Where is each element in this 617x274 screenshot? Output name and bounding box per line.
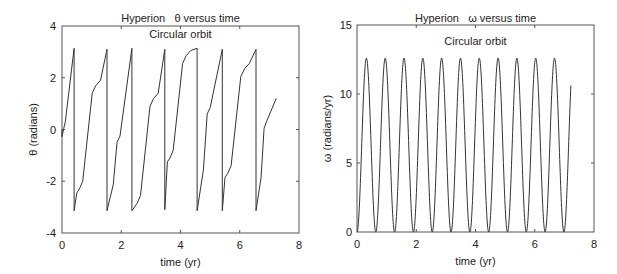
omega-title: Hyperion ω versus time — [415, 12, 536, 24]
theta-xtick-2: 2 — [118, 239, 124, 251]
theta-xlabel: time (yr) — [160, 256, 200, 268]
omega-ytick-10: 10 — [340, 88, 352, 100]
omega-xtick-6: 6 — [532, 238, 538, 250]
omega-xtick-4: 4 — [472, 238, 478, 250]
theta-ytick-neg4: -4 — [46, 227, 56, 239]
theta-ytick-0: 0 — [50, 124, 56, 136]
theta-ytick-neg2: -2 — [46, 175, 56, 187]
omega-ytick-15: 15 — [340, 19, 352, 31]
omega-ytick-0: 0 — [346, 226, 352, 238]
omega-ylabel: ω (radians/yr) — [321, 95, 333, 162]
omega-subtitle: Circular orbit — [444, 35, 506, 47]
omega-ytick-5: 5 — [346, 157, 352, 169]
theta-xtick-0: 0 — [59, 239, 65, 251]
theta-subtitle: Circular orbit — [149, 28, 211, 40]
theta-title: Hyperion θ versus time — [121, 12, 240, 24]
omega-xtick-8: 8 — [591, 238, 597, 250]
omega-xtick-2: 2 — [413, 238, 419, 250]
theta-ylabel: θ (radians) — [27, 103, 39, 156]
omega-plot: 15 10 5 0 0 2 4 6 8 time (yr) ω (radians… — [321, 12, 597, 267]
theta-plot-frame — [62, 26, 299, 233]
theta-xtick-6: 6 — [237, 239, 243, 251]
theta-ytick-2: 2 — [50, 72, 56, 84]
omega-curve — [357, 58, 571, 232]
theta-xtick-4: 4 — [177, 239, 183, 251]
figure: 4 2 0 -2 -4 0 2 4 6 8 time (yr) θ (radia… — [0, 0, 617, 274]
theta-ytick-4: 4 — [50, 20, 56, 32]
theta-xtick-8: 8 — [296, 239, 302, 251]
omega-xlabel: time (yr) — [455, 255, 495, 267]
theta-plot: 4 2 0 -2 -4 0 2 4 6 8 time (yr) θ (radia… — [27, 12, 302, 268]
omega-xtick-0: 0 — [354, 238, 360, 250]
theta-plot-ticks — [62, 26, 299, 233]
theta-curve — [62, 48, 276, 210]
